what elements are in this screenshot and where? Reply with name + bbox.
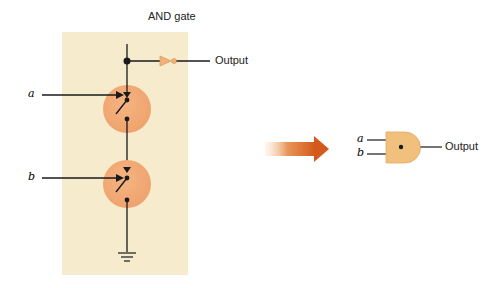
switch-a-icon [42, 84, 151, 133]
arrow-right-icon [265, 136, 329, 162]
inverter-icon [160, 56, 177, 66]
circuit-drawing [0, 0, 501, 288]
circuit-title: AND gate [148, 10, 196, 22]
gate-output-label: Output [445, 140, 478, 152]
gate-input-a-label: a [357, 132, 364, 145]
and-gate-icon [367, 132, 442, 163]
gate-input-b-label: b [357, 146, 364, 159]
switch-b-icon [42, 160, 151, 208]
circuit-output-label: Output [215, 54, 248, 66]
circuit-input-b-label: b [28, 170, 35, 183]
circuit-input-a-label: a [28, 87, 35, 100]
ground-icon [118, 253, 136, 261]
